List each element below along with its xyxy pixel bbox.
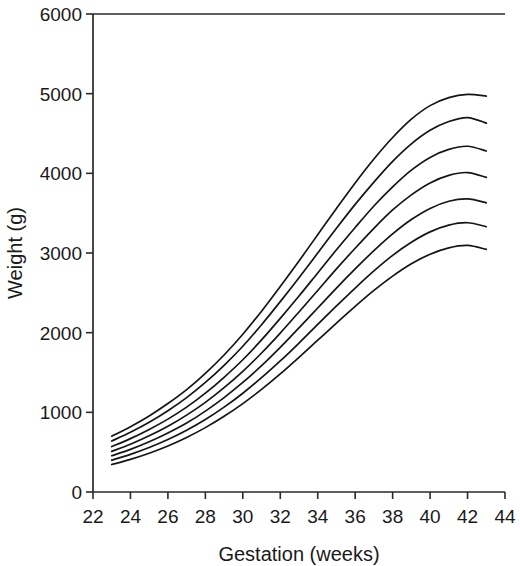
x-tick-label: 40 <box>420 506 441 527</box>
y-tick-label: 4000 <box>40 163 82 184</box>
centile-curve <box>112 94 487 436</box>
y-axis-ticks <box>86 14 93 492</box>
growth-chart-figure: 0100020003000400050006000 22242628303234… <box>0 0 520 566</box>
centile-curve <box>112 199 487 456</box>
x-tick-label: 42 <box>457 506 478 527</box>
axes-group <box>93 14 505 492</box>
centile-curve <box>112 223 487 460</box>
centile-curve <box>112 146 487 446</box>
centile-curve <box>112 172 487 451</box>
x-tick-label: 44 <box>494 506 516 527</box>
centile-curves <box>112 94 487 464</box>
x-tick-label: 36 <box>345 506 366 527</box>
chart-canvas: 0100020003000400050006000 22242628303234… <box>0 0 520 566</box>
x-axis-ticks <box>93 492 505 499</box>
x-tick-label: 22 <box>82 506 103 527</box>
x-axis-tick-labels: 222426283032343638404244 <box>82 506 516 527</box>
y-tick-label: 1000 <box>40 402 82 423</box>
x-tick-label: 26 <box>157 506 178 527</box>
y-tick-label: 3000 <box>40 243 82 264</box>
y-tick-label: 0 <box>71 482 82 503</box>
y-tick-label: 2000 <box>40 323 82 344</box>
x-tick-label: 30 <box>232 506 253 527</box>
centile-curve <box>112 118 487 441</box>
x-tick-label: 34 <box>307 506 329 527</box>
y-axis-tick-labels: 0100020003000400050006000 <box>40 4 82 503</box>
x-tick-label: 38 <box>382 506 403 527</box>
x-tick-label: 32 <box>270 506 291 527</box>
x-tick-label: 24 <box>120 506 142 527</box>
plot-frame <box>93 14 505 492</box>
y-tick-label: 5000 <box>40 84 82 105</box>
y-tick-label: 6000 <box>40 4 82 25</box>
x-axis-title: Gestation (weeks) <box>218 543 379 565</box>
y-axis-title: Weight (g) <box>4 207 26 299</box>
x-tick-label: 28 <box>195 506 216 527</box>
